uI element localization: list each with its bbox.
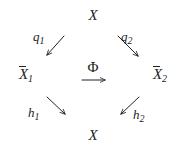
arrow-q2 [118,36,138,56]
arrow-h2 [121,97,139,114]
arrow-q1 [47,36,64,55]
arrow-layer [0,0,186,152]
arrow-h1 [47,97,65,114]
commutative-diagram: X X1 X2 Φ X q1 q2 h1 h2 [0,0,186,152]
